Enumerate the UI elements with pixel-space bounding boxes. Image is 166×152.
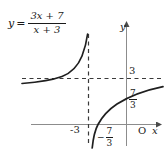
equation-fraction: 3x + 7 x + 3 [28, 11, 65, 35]
horizontal-asymptote-label: 3 [129, 66, 135, 76]
y-axis-label: y [120, 22, 126, 32]
rational-function-figure: y = 3x + 7 x + 3 y x O 3 -3 7 3 − 7 3 [0, 0, 166, 152]
equation-lhs: y [8, 18, 14, 29]
x-intercept-numerator: 7 [106, 127, 114, 136]
y-intercept-denominator: 3 [129, 101, 137, 110]
x-intercept-denominator: 3 [106, 139, 114, 148]
origin-label: O [138, 126, 146, 136]
vertical-asymptote-label: -3 [70, 125, 80, 135]
equation-numerator: 3x + 7 [28, 11, 65, 22]
x-intercept-fraction: 7 3 [106, 127, 114, 149]
x-intercept-minus-sign: − [97, 133, 105, 142]
y-intercept-label: 7 3 [129, 89, 137, 111]
equation-denominator: x + 3 [32, 25, 63, 36]
x-axis-label: x [152, 126, 158, 136]
x-intercept-label: − 7 3 [97, 127, 113, 149]
curve-left-branch [22, 34, 88, 84]
equation-equals-sign: = [16, 18, 25, 29]
function-equation: y = 3x + 7 x + 3 [8, 11, 66, 35]
y-intercept-numerator: 7 [129, 89, 137, 98]
